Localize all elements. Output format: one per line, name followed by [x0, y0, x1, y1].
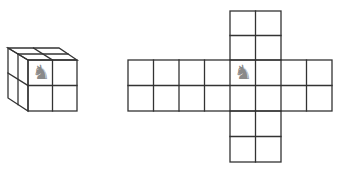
cube-knight-icon: ♞: [30, 62, 52, 84]
diagram-lines: [0, 0, 339, 173]
net-knight-icon: ♞: [231, 62, 255, 84]
cube-net: [128, 11, 332, 162]
cube-net-diagram: ♞ ♞: [0, 0, 339, 173]
